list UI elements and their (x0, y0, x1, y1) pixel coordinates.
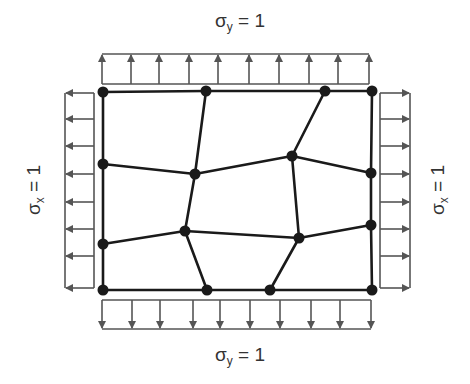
mesh-edge (299, 225, 371, 238)
mesh-node (320, 86, 331, 97)
mesh-node (366, 220, 377, 231)
mesh-node (98, 159, 109, 170)
mesh-node (180, 226, 191, 237)
mesh-nodes (98, 86, 378, 296)
top-load-arrows (102, 54, 369, 84)
mesh-edge (292, 156, 371, 173)
mesh-edge (270, 238, 299, 290)
mesh-edge (185, 231, 299, 238)
bottom-load-arrows (102, 300, 371, 329)
mesh-node (202, 285, 213, 296)
mesh-edge (195, 156, 292, 174)
mesh-node (294, 233, 305, 244)
mesh-edge (292, 156, 299, 238)
mesh-node (367, 86, 378, 97)
mesh-node (98, 239, 109, 250)
finite-element-mesh-diagram: σy = 1 σy = 1 σx = 1 σx = 1 (0, 0, 470, 384)
mesh-edge (371, 225, 372, 290)
mesh-edge (195, 91, 206, 174)
right-stress-label: σx = 1 (427, 165, 451, 215)
left-stress-label: σx = 1 (23, 165, 47, 215)
left-load-arrows (65, 93, 94, 288)
mesh-node (366, 168, 377, 179)
mesh-edge (103, 231, 185, 244)
mesh-node (190, 169, 201, 180)
mesh-edge (185, 231, 207, 290)
mesh-node (367, 285, 378, 296)
mesh-node (201, 86, 212, 97)
mesh-node (287, 151, 298, 162)
mesh-edge (292, 91, 325, 156)
top-stress-label: σy = 1 (215, 10, 265, 34)
right-load-arrows (380, 93, 410, 288)
mesh-edge (185, 174, 195, 231)
bottom-stress-label: σy = 1 (215, 344, 265, 368)
mesh-node (265, 285, 276, 296)
mesh-edge (103, 164, 195, 174)
mesh-node (98, 87, 109, 98)
mesh-node (98, 285, 109, 296)
mesh-edges (103, 91, 372, 290)
mesh-edge (103, 91, 206, 92)
mesh-edge (371, 91, 372, 173)
